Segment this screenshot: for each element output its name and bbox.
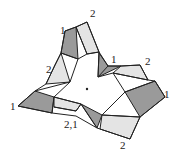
label-left-2: 2: [46, 63, 52, 75]
label-inner-right-1: 1: [111, 53, 117, 65]
label-bottom-2-1: 2,1: [64, 118, 78, 130]
light-face-top: [76, 22, 99, 54]
center-point: [86, 88, 88, 90]
label-upper-left-1: 1: [60, 24, 66, 36]
dark-face-right: [125, 81, 165, 117]
label-top-2: 2: [90, 7, 96, 19]
label-far-right-1: 1: [164, 88, 170, 100]
label-bottom-2: 2: [120, 139, 126, 151]
label-right-2: 2: [145, 55, 151, 67]
tiling-diagram: 2 1 2 1 2 1 1 2,1 2: [0, 0, 177, 157]
label-far-left-1: 1: [10, 100, 16, 112]
